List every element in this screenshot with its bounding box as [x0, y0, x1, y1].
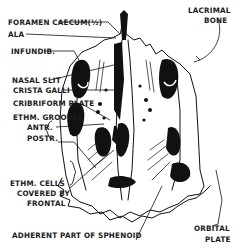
label-covered-by: COVERED BY — [17, 190, 70, 198]
label-foramen-caecum: FORAMEN CAECUM(½) — [8, 19, 102, 27]
label-orbital: ORBITAL — [194, 225, 230, 233]
label-ala: ALA — [8, 31, 24, 39]
label-adherent-sphenoid: ADHERENT PART OF SPHENOID — [12, 232, 142, 240]
label-frontal: FRONTAL — [27, 200, 65, 208]
label-nasal-slit: NASAL SLIT — [12, 77, 61, 85]
label-crista-galli: CRISTA GALLI — [13, 87, 70, 95]
label-antr: ANTR. — [27, 124, 53, 132]
label-cribriform-plate: CRIBRIFORM PLATE — [13, 100, 94, 108]
label-bone: BONE — [204, 17, 227, 25]
label-plate: PLATE — [205, 236, 231, 244]
label-ethm-cells: ETHM. CELLS — [10, 180, 65, 188]
label-infundib: INFUNDIB. — [11, 48, 55, 56]
label-ethm-grooves: ETHM. GROOVES — [13, 114, 83, 122]
label-postr: POSTR. — [27, 135, 58, 143]
label-lacrimal: LACRIMAL — [188, 7, 231, 15]
